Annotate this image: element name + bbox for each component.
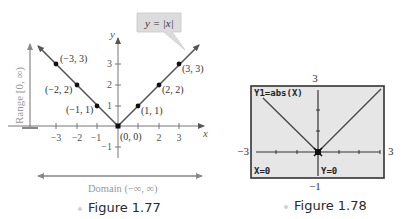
y-axis: 3 2 1 −1 y bbox=[101, 28, 121, 158]
y-tick-label: 1 bbox=[107, 100, 112, 111]
x-tick-label: −3 bbox=[51, 132, 62, 143]
point-label: (3, 3) bbox=[182, 63, 204, 75]
screen-function-label: Y1=abs(X) bbox=[254, 88, 303, 98]
point bbox=[95, 104, 100, 109]
point-label: (0, 0) bbox=[120, 131, 142, 143]
point-label: (−3, 3) bbox=[60, 53, 87, 65]
window-ymin: −1 bbox=[309, 180, 321, 192]
figure-1-77-caption: Figure 1.77 bbox=[78, 200, 161, 215]
figure-1-78-calculator: 3 −1 −3 3 Y1=abs(X) X=0 Y=0 bbox=[237, 72, 394, 192]
domain-label: Domain (−∞, ∞) bbox=[88, 183, 158, 195]
x-axis: −3 −2 −1 2 3 x bbox=[8, 123, 208, 143]
y-axis-label: y bbox=[109, 28, 115, 40]
origin-point bbox=[116, 124, 121, 129]
point-label: (2, 2) bbox=[162, 84, 184, 96]
point-label: (1, 1) bbox=[141, 105, 163, 117]
y-tick-label: 2 bbox=[107, 79, 112, 90]
function-label: y = |x| bbox=[144, 17, 174, 29]
figure-1-78-caption: Figure 1.78 bbox=[284, 198, 367, 213]
cursor-y-readout: Y=0 bbox=[321, 166, 337, 176]
point bbox=[75, 83, 80, 88]
figure-1-77-graph: Range [0, ∞) −3 −2 −1 2 3 x bbox=[8, 13, 208, 195]
x-tick-label: 3 bbox=[177, 132, 182, 143]
x-axis-label: x bbox=[202, 127, 208, 139]
range-label: Range [0, ∞) bbox=[13, 67, 26, 124]
point bbox=[54, 62, 59, 67]
point bbox=[177, 62, 182, 67]
x-tick-label: 2 bbox=[157, 132, 162, 143]
figure-canvas: Range [0, ∞) −3 −2 −1 2 3 x bbox=[0, 0, 407, 219]
window-xmax: 3 bbox=[388, 145, 394, 157]
point bbox=[157, 83, 162, 88]
caption-bullet-icon bbox=[284, 205, 288, 209]
function-callout: y = |x| bbox=[137, 13, 185, 50]
caption-bullet-icon bbox=[78, 207, 82, 211]
caption-text: Figure 1.78 bbox=[294, 198, 367, 213]
cursor-x-readout: X=0 bbox=[254, 166, 270, 176]
x-tick-label: −1 bbox=[91, 132, 102, 143]
point bbox=[136, 104, 141, 109]
x-tick-label: −2 bbox=[72, 132, 83, 143]
y-tick-label: −1 bbox=[101, 141, 112, 152]
window-ymax: 3 bbox=[312, 72, 318, 84]
point-label: (−1, 1) bbox=[66, 104, 93, 116]
caption-text: Figure 1.77 bbox=[88, 200, 161, 215]
window-xmin: −3 bbox=[237, 145, 249, 157]
y-tick-label: 3 bbox=[107, 58, 112, 69]
point-label: (−2, 2) bbox=[45, 84, 72, 96]
